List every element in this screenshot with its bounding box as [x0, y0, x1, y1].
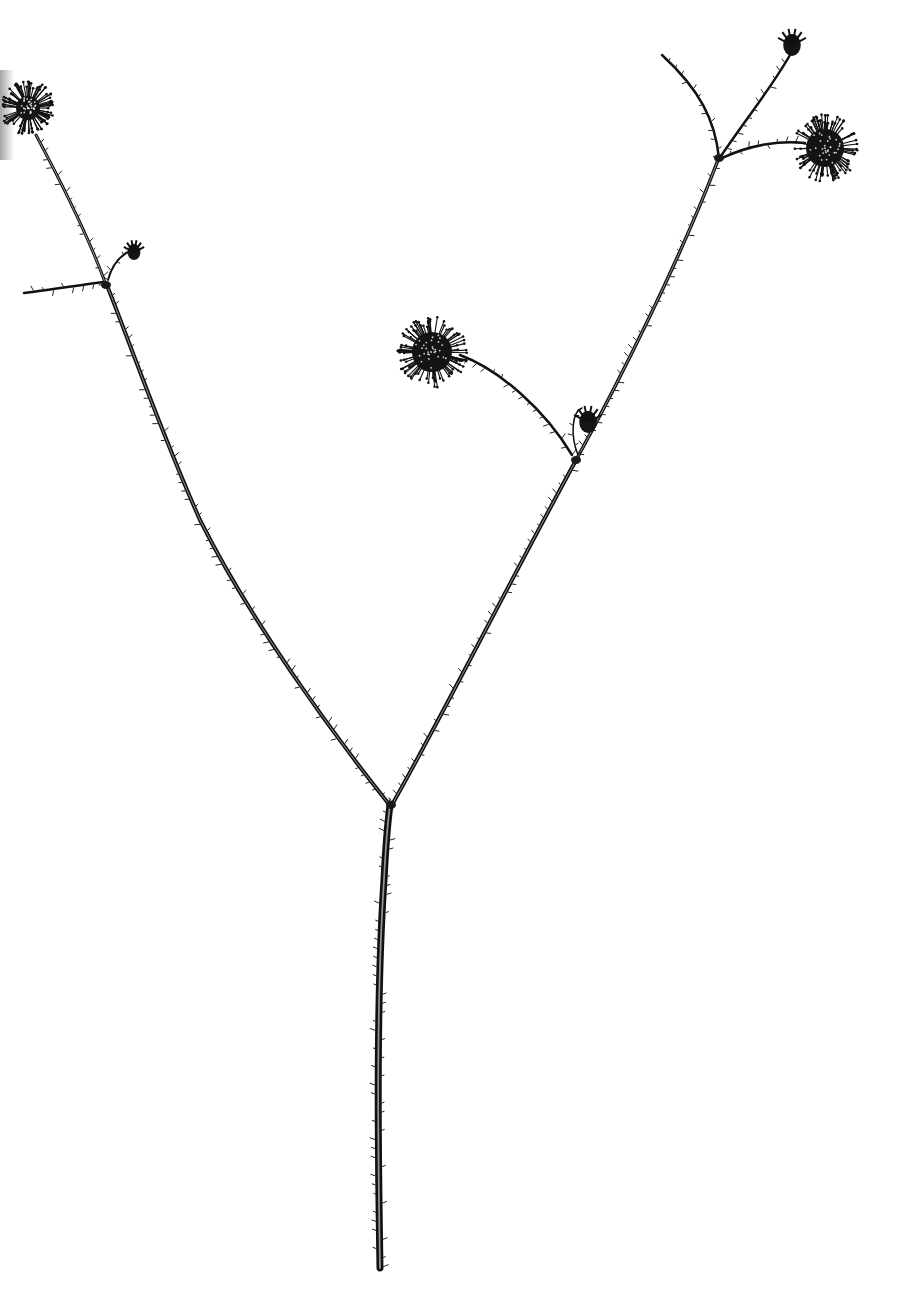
stem-hair: [374, 1193, 376, 1194]
stem-hair: [682, 82, 686, 83]
stem-hair: [412, 758, 414, 761]
stem-hair: [481, 368, 485, 371]
stem-hair: [622, 362, 624, 365]
stem-hair: [66, 187, 70, 191]
stem-hair: [585, 435, 587, 437]
stem-hair: [579, 441, 583, 445]
stem-hair: [628, 344, 632, 348]
stem-hair: [370, 1028, 375, 1030]
stem-hair: [295, 687, 300, 688]
left-upper-stem: [36, 135, 106, 285]
stem-hair: [379, 828, 384, 830]
stem-hair: [552, 489, 556, 493]
stem-hair: [528, 539, 530, 542]
stem-hair: [498, 597, 500, 599]
stem-hair: [380, 819, 385, 822]
stem-hair: [382, 1111, 385, 1112]
stem-hair: [331, 739, 336, 741]
stem-hair: [688, 224, 689, 225]
stem-hair: [269, 649, 274, 650]
stem-hair: [372, 1184, 376, 1185]
stem-hair: [650, 305, 652, 308]
stem-hair: [382, 1002, 385, 1003]
top-left-twig: [662, 55, 719, 158]
botanical-illustration: [0, 0, 899, 1301]
stem-hair: [318, 705, 320, 707]
stem-hair: [694, 207, 697, 210]
stem-hair: [372, 1120, 375, 1121]
stem-hair: [738, 133, 743, 134]
stem-hair: [382, 1201, 386, 1203]
stem-hair: [171, 446, 173, 448]
stem-hair: [390, 839, 395, 841]
stem-hair: [421, 743, 423, 745]
stem-hair: [638, 330, 640, 332]
stem-hair: [434, 719, 436, 721]
stem-hair: [383, 792, 384, 794]
stem-hair: [350, 748, 352, 751]
stem-hair: [227, 580, 231, 581]
stem-hair: [527, 403, 529, 404]
stem-hair: [58, 171, 62, 175]
stem-hair: [97, 255, 100, 258]
stem-hair: [253, 606, 255, 609]
stem-hairs: [31, 58, 798, 1266]
stem-hair: [758, 140, 759, 144]
stem-hair: [52, 290, 53, 296]
stem-hair: [373, 1048, 375, 1049]
stem-hair: [677, 249, 679, 251]
stem-hair: [46, 168, 51, 169]
stem-hair: [768, 145, 770, 149]
stem-hair: [375, 920, 378, 921]
flower-head-top-left: [2, 80, 54, 134]
stem-hair: [232, 588, 235, 589]
stem-hair: [531, 530, 534, 533]
stem-hair: [518, 397, 522, 399]
stem-hair: [116, 301, 119, 303]
flower-head-top-right: [794, 113, 859, 182]
stem-hair: [212, 556, 217, 557]
stem-hair: [708, 173, 710, 175]
stem-hair: [669, 58, 670, 60]
stem-hair: [263, 642, 269, 643]
stem-hair: [243, 590, 246, 594]
stem-hair: [727, 148, 731, 149]
stem-hair: [472, 364, 476, 368]
stem-hair: [786, 137, 788, 141]
stem-hair: [379, 866, 382, 867]
stem-nodes: [101, 154, 724, 809]
stem-hair: [749, 141, 750, 147]
stem-hair: [533, 410, 536, 411]
stem-hair: [361, 775, 364, 776]
middle-flower-stalk: [460, 355, 572, 455]
stem-hair: [126, 326, 129, 329]
stem-hair: [370, 1138, 375, 1140]
node-right-mid: [571, 456, 581, 464]
stem-hair: [374, 938, 377, 939]
stem-hair: [107, 266, 111, 270]
stem-hair: [365, 782, 369, 783]
stem-hair: [712, 118, 715, 121]
stem-hair: [90, 238, 93, 241]
stem-hair: [573, 470, 579, 471]
stem-hair: [550, 432, 555, 434]
stem-hair: [145, 378, 147, 380]
stem-hair: [374, 901, 379, 903]
stem-hair: [548, 497, 551, 501]
stem-hair: [615, 390, 619, 391]
stem-hair: [260, 634, 264, 635]
stem-hair: [113, 293, 115, 295]
stem-hair: [46, 147, 48, 150]
stem-hair: [372, 1220, 376, 1222]
stem-hair: [469, 654, 470, 656]
stem-hair: [370, 1174, 375, 1176]
stem-hair: [373, 984, 376, 985]
stem-hair: [373, 956, 377, 958]
stem-hair: [633, 337, 636, 340]
stem-hair: [598, 422, 602, 423]
stem-hair: [72, 287, 73, 293]
stem-hair: [375, 929, 378, 930]
stem-hair: [749, 118, 752, 119]
bud-top: [778, 29, 806, 56]
stem-hair: [308, 688, 311, 692]
